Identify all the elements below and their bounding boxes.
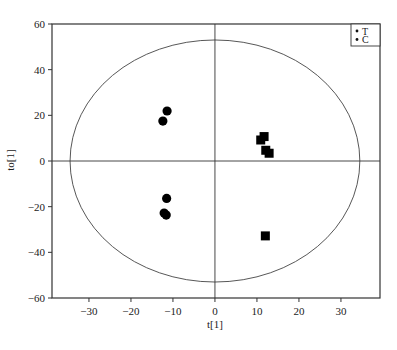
x-axis-ticks: −30−20−100102030 <box>80 298 347 317</box>
reference-lines <box>52 24 380 298</box>
y-axis-title: to[1] <box>4 149 16 170</box>
circle-marker-C <box>162 106 171 115</box>
square-marker-T <box>256 135 265 144</box>
y-tick-label: 0 <box>40 155 46 167</box>
y-tick-label: 20 <box>34 109 46 121</box>
circle-marker-C <box>162 211 171 220</box>
y-tick-label: 60 <box>34 18 46 30</box>
y-axis-ticks: −60−40−200204060 <box>28 18 52 304</box>
x-axis-title: t[1] <box>207 318 223 330</box>
data-points <box>158 106 273 240</box>
x-tick-label: 10 <box>251 305 263 317</box>
legend: TC <box>351 24 380 46</box>
circle-marker-C <box>162 194 171 203</box>
legend-bullet-icon <box>356 30 359 33</box>
x-tick-label: −20 <box>122 305 140 317</box>
pca-score-plot: −30−20−100102030 −60−40−200204060 TC t[1… <box>0 0 397 350</box>
x-tick-label: 20 <box>293 305 305 317</box>
y-tick-label: −20 <box>28 201 46 213</box>
square-marker-T <box>261 231 270 240</box>
legend-bullet-icon <box>356 38 359 41</box>
circle-marker-C <box>158 116 167 125</box>
y-tick-label: −60 <box>28 292 46 304</box>
y-tick-label: 40 <box>34 64 46 76</box>
legend-label-C: C <box>362 34 369 45</box>
x-tick-label: −30 <box>80 305 98 317</box>
x-tick-label: 30 <box>335 305 347 317</box>
x-tick-label: 0 <box>212 305 218 317</box>
y-tick-label: −40 <box>28 246 46 258</box>
square-marker-T <box>265 149 274 158</box>
x-tick-label: −10 <box>164 305 182 317</box>
